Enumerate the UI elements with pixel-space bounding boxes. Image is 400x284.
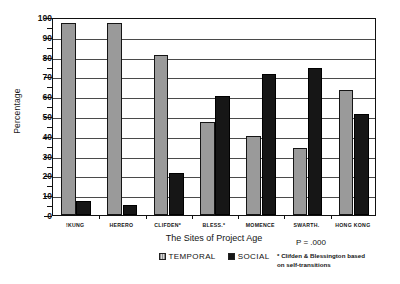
x-axis-title: The Sites of Project Age bbox=[52, 233, 376, 243]
y-tick-label: 0 bbox=[12, 211, 52, 221]
x-tick-label: !KUNG bbox=[66, 222, 85, 228]
legend-entry-social: SOCIAL bbox=[228, 252, 270, 261]
legend-swatch-temporal bbox=[159, 253, 166, 260]
legend-label: TEMPORAL bbox=[169, 252, 216, 261]
y-tick-label: 40 bbox=[12, 132, 52, 142]
bar-social bbox=[308, 68, 323, 215]
x-tick-mark bbox=[238, 215, 239, 219]
bar-temporal bbox=[200, 122, 215, 215]
bar-group bbox=[53, 19, 99, 215]
bar-group bbox=[99, 19, 145, 215]
x-tick-label: HONG KONG bbox=[335, 222, 370, 228]
y-tick-label: 70 bbox=[12, 72, 52, 82]
x-tick-mark bbox=[284, 215, 285, 219]
x-tick-label: BLESS.* bbox=[203, 222, 226, 228]
y-tick-label: 80 bbox=[12, 53, 52, 63]
bar-social bbox=[169, 173, 184, 215]
bar-temporal bbox=[154, 55, 169, 215]
bar-group bbox=[284, 19, 330, 215]
legend-entry-temporal: TEMPORAL bbox=[159, 252, 216, 261]
bar-social bbox=[262, 74, 277, 215]
y-tick-label: 100 bbox=[12, 13, 52, 23]
x-tick-label: CLIFDEN* bbox=[154, 222, 181, 228]
bar-group bbox=[146, 19, 192, 215]
x-tick-label: HERERO bbox=[109, 222, 133, 228]
x-tick-mark bbox=[146, 215, 147, 219]
bar-temporal bbox=[339, 90, 354, 215]
bar-group bbox=[192, 19, 238, 215]
plot-inner bbox=[53, 19, 375, 215]
bar-social bbox=[215, 96, 230, 215]
y-tick-label: 10 bbox=[12, 191, 52, 201]
x-tick-mark bbox=[331, 215, 332, 219]
p-value-annotation: P = .000 bbox=[296, 238, 326, 247]
x-tick-mark bbox=[192, 215, 193, 219]
x-tick-mark bbox=[99, 215, 100, 219]
bar-temporal bbox=[293, 148, 308, 215]
bar-group bbox=[331, 19, 377, 215]
y-tick-label: 30 bbox=[12, 152, 52, 162]
y-tick-label: 90 bbox=[12, 33, 52, 43]
plot-area bbox=[52, 18, 376, 216]
y-tick-label: 50 bbox=[12, 112, 52, 122]
bar-temporal bbox=[246, 136, 261, 215]
y-tick-label: 60 bbox=[12, 92, 52, 102]
bar-social bbox=[123, 205, 138, 215]
y-tick-label: 20 bbox=[12, 171, 52, 181]
legend-label: SOCIAL bbox=[238, 252, 270, 261]
bar-temporal bbox=[107, 23, 122, 215]
bar-social bbox=[76, 201, 91, 215]
bar-group bbox=[238, 19, 284, 215]
footnote-line-1: * Clifden & Blessington based bbox=[277, 252, 399, 261]
bar-chart-figure: Percentage 0102030405060708090100 !KUNGH… bbox=[0, 0, 400, 284]
x-tick-label: MOMENCE bbox=[246, 222, 275, 228]
x-tick-label: SWARTH. bbox=[294, 222, 320, 228]
bar-social bbox=[354, 114, 369, 215]
legend-swatch-social bbox=[228, 253, 235, 260]
footnote-line-2: on self-transitions bbox=[277, 261, 399, 270]
footnote-annotation: * Clifden & Blessington based on self-tr… bbox=[277, 252, 399, 270]
bar-temporal bbox=[61, 23, 76, 215]
